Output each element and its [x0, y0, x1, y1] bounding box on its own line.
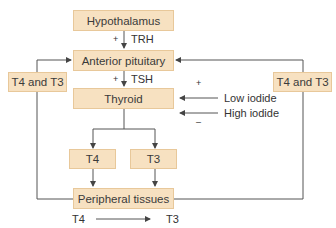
t3-node: T3 [130, 149, 177, 169]
high-iodide-minus-sign: – [196, 117, 201, 127]
trh-plus-sign: + [113, 34, 118, 44]
t4-node: T4 [69, 149, 116, 169]
peripheral-tissues-node: Peripheral tissues [73, 188, 174, 209]
high-iodide-label: High iodide [224, 107, 279, 119]
trh-label: TRH [131, 33, 154, 45]
feedback-left-node: T4 and T3 [8, 72, 67, 92]
low-iodide-plus-sign: + [196, 78, 201, 88]
feedback-right-node: T4 and T3 [273, 72, 332, 92]
low-iodide-label: Low iodide [224, 92, 277, 104]
thyroid-node: Thyroid [73, 88, 174, 109]
tsh-label: TSH [131, 73, 153, 85]
anterior-pituitary-node: Anterior pituitary [73, 50, 174, 71]
hypothalamus-node: Hypothalamus [73, 10, 174, 31]
conversion-to-label: T3 [166, 213, 179, 225]
tsh-plus-sign: + [113, 74, 118, 84]
conversion-from-label: T4 [72, 213, 85, 225]
